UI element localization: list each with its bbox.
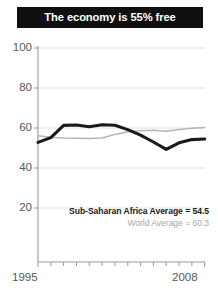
economic-freedom-chart: The economy is 55% free <box>0 0 218 299</box>
legend-item-sub-saharan-africa-average: Sub-Saharan Africa Average = 54.5 <box>57 205 209 217</box>
x-axis-ticks <box>38 262 205 267</box>
plot-svg <box>0 0 218 299</box>
x-tick-2008: 2008 <box>172 272 198 284</box>
series-line-world-average <box>38 127 205 138</box>
x-tick-1995: 1995 <box>12 272 38 284</box>
plot-area: 100 80 60 40 20 1995 2008 <box>0 0 218 299</box>
legend-item-world-average: World Average = 60.3 <box>57 217 209 229</box>
chart-legend: Sub-Saharan Africa Average = 54.5 World … <box>57 205 209 230</box>
y-axis-ticks <box>34 48 38 208</box>
series-line-sub-saharan-africa-average <box>38 125 205 150</box>
